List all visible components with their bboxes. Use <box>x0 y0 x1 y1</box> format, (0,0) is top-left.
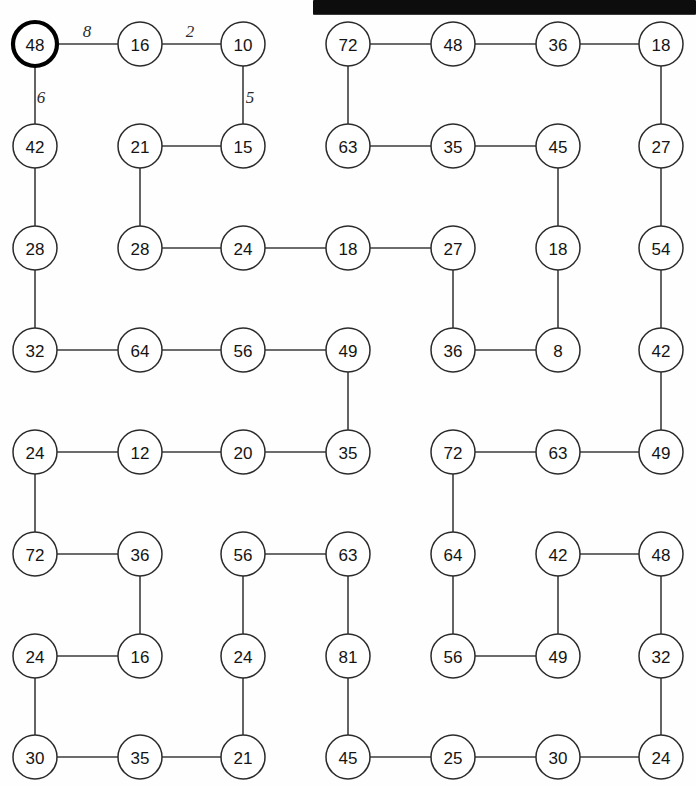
graph-node[interactable]: 45 <box>326 735 370 779</box>
graph-node[interactable]: 30 <box>536 735 580 779</box>
node-circle[interactable] <box>326 124 370 168</box>
node-circle[interactable] <box>431 124 475 168</box>
graph-node[interactable]: 18 <box>536 226 580 270</box>
node-circle[interactable] <box>536 328 580 372</box>
graph-node[interactable]: 8 <box>536 328 580 372</box>
graph-node[interactable]: 21 <box>118 124 162 168</box>
graph-node[interactable]: 54 <box>639 226 683 270</box>
graph-node[interactable]: 63 <box>326 124 370 168</box>
graph-node[interactable]: 24 <box>13 430 57 474</box>
graph-node[interactable]: 49 <box>326 328 370 372</box>
node-circle[interactable] <box>118 124 162 168</box>
graph-node[interactable]: 25 <box>431 735 475 779</box>
graph-node[interactable]: 35 <box>118 735 162 779</box>
node-circle[interactable] <box>13 735 57 779</box>
node-circle[interactable] <box>431 328 475 372</box>
graph-node[interactable]: 42 <box>639 328 683 372</box>
node-circle[interactable] <box>639 226 683 270</box>
graph-node[interactable]: 56 <box>221 328 265 372</box>
graph-node[interactable]: 24 <box>13 634 57 678</box>
node-circle[interactable] <box>118 22 162 66</box>
node-circle[interactable] <box>118 532 162 576</box>
node-circle[interactable] <box>431 430 475 474</box>
node-circle[interactable] <box>221 634 265 678</box>
graph-node-start[interactable]: 48 <box>13 22 57 66</box>
node-circle[interactable] <box>536 22 580 66</box>
graph-node[interactable]: 30 <box>13 735 57 779</box>
node-circle[interactable] <box>536 430 580 474</box>
graph-node[interactable]: 49 <box>536 634 580 678</box>
node-circle[interactable] <box>536 226 580 270</box>
node-circle[interactable] <box>431 22 475 66</box>
node-circle[interactable] <box>326 634 370 678</box>
node-circle[interactable] <box>118 634 162 678</box>
graph-node[interactable]: 64 <box>431 532 475 576</box>
graph-node[interactable]: 24 <box>221 226 265 270</box>
graph-node[interactable]: 27 <box>431 226 475 270</box>
node-circle[interactable] <box>639 22 683 66</box>
graph-node[interactable]: 56 <box>221 532 265 576</box>
graph-node[interactable]: 63 <box>536 430 580 474</box>
node-circle[interactable] <box>639 430 683 474</box>
graph-node[interactable]: 12 <box>118 430 162 474</box>
node-circle[interactable] <box>326 532 370 576</box>
graph-node[interactable]: 36 <box>118 532 162 576</box>
node-circle[interactable] <box>118 430 162 474</box>
graph-node[interactable]: 81 <box>326 634 370 678</box>
graph-node[interactable]: 36 <box>431 328 475 372</box>
node-circle[interactable] <box>639 735 683 779</box>
graph-node[interactable]: 18 <box>326 226 370 270</box>
node-circle[interactable] <box>639 328 683 372</box>
node-circle[interactable] <box>639 532 683 576</box>
graph-node[interactable]: 48 <box>639 532 683 576</box>
node-circle[interactable] <box>13 634 57 678</box>
node-circle[interactable] <box>221 532 265 576</box>
graph-node[interactable]: 48 <box>431 22 475 66</box>
node-circle[interactable] <box>326 735 370 779</box>
node-circle[interactable] <box>431 532 475 576</box>
node-circle[interactable] <box>431 735 475 779</box>
graph-node[interactable]: 72 <box>13 532 57 576</box>
graph-node[interactable]: 15 <box>221 124 265 168</box>
graph-node[interactable]: 20 <box>221 430 265 474</box>
node-circle[interactable] <box>536 634 580 678</box>
node-circle[interactable] <box>13 22 57 66</box>
graph-node[interactable]: 32 <box>639 634 683 678</box>
graph-node[interactable]: 27 <box>639 124 683 168</box>
graph-node[interactable]: 64 <box>118 328 162 372</box>
graph-node[interactable]: 32 <box>13 328 57 372</box>
graph-node[interactable]: 36 <box>536 22 580 66</box>
node-circle[interactable] <box>431 226 475 270</box>
node-circle[interactable] <box>326 328 370 372</box>
node-circle[interactable] <box>221 124 265 168</box>
graph-node[interactable]: 49 <box>639 430 683 474</box>
graph-node[interactable]: 42 <box>13 124 57 168</box>
node-circle[interactable] <box>639 634 683 678</box>
graph-node[interactable]: 28 <box>13 226 57 270</box>
graph-node[interactable]: 45 <box>536 124 580 168</box>
graph-node[interactable]: 42 <box>536 532 580 576</box>
graph-node[interactable]: 24 <box>639 735 683 779</box>
node-circle[interactable] <box>431 634 475 678</box>
graph-node[interactable]: 72 <box>431 430 475 474</box>
node-circle[interactable] <box>118 735 162 779</box>
node-circle[interactable] <box>13 532 57 576</box>
node-circle[interactable] <box>13 430 57 474</box>
graph-node[interactable]: 35 <box>431 124 475 168</box>
graph-node[interactable]: 10 <box>221 22 265 66</box>
graph-node[interactable]: 16 <box>118 634 162 678</box>
graph-node[interactable]: 21 <box>221 735 265 779</box>
node-circle[interactable] <box>326 226 370 270</box>
node-circle[interactable] <box>13 124 57 168</box>
graph-node[interactable]: 18 <box>639 22 683 66</box>
graph-node[interactable]: 63 <box>326 532 370 576</box>
graph-node[interactable]: 35 <box>326 430 370 474</box>
node-circle[interactable] <box>13 226 57 270</box>
node-circle[interactable] <box>118 328 162 372</box>
graph-node[interactable]: 28 <box>118 226 162 270</box>
node-circle[interactable] <box>639 124 683 168</box>
node-circle[interactable] <box>221 735 265 779</box>
node-circle[interactable] <box>221 22 265 66</box>
graph-node[interactable]: 16 <box>118 22 162 66</box>
graph-node[interactable]: 56 <box>431 634 475 678</box>
